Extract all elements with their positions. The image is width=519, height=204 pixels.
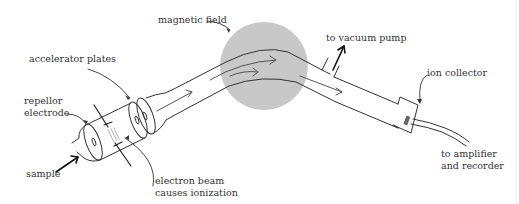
label-repellor: repellor [24,95,62,107]
label-electrode: electrode [24,107,69,119]
mass-spectrometer-diagram: magnetic field accelerator plates repell… [0,0,519,204]
label-magnetic-field: magnetic field [158,14,227,26]
label-ion-collector: ion collector [427,67,487,79]
output-wire [411,119,469,146]
label-and-recorder: and recorder [441,160,504,172]
page-edge-line [516,0,517,204]
label-causes-ionization: causes ionization [155,187,238,199]
ion-collector-plate [403,116,410,126]
electron-beam-dots [108,128,119,142]
label-sample: sample [26,168,60,180]
diagram-canvas [0,0,519,204]
label-vacuum-pump: to vacuum pump [326,32,406,44]
electron-filament [94,105,131,166]
label-electron-beam: electron beam [155,175,224,187]
magnetic-field-disc [220,22,308,110]
ion-source-chamber [72,90,173,162]
label-to-amplifier: to amplifier [441,148,497,160]
label-accelerator-plates: accelerator plates [29,53,116,65]
